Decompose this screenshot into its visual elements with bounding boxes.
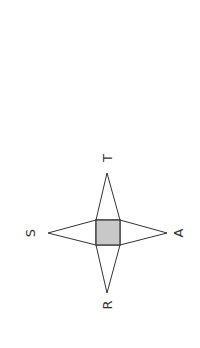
label-bottom: R — [100, 300, 115, 309]
label-top: T — [100, 154, 115, 163]
face-right — [120, 220, 167, 245]
square-base — [96, 220, 120, 245]
face-bottom — [96, 245, 120, 293]
pyramid-net-diagram: T S A R — [0, 0, 200, 348]
face-left — [48, 220, 96, 245]
face-top — [96, 173, 120, 220]
label-right: A — [171, 228, 186, 237]
label-left: S — [23, 229, 38, 237]
